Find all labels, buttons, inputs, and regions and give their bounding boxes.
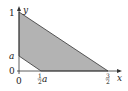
- y-tick-0: 0: [9, 66, 15, 76]
- y-tick-a: a: [9, 51, 14, 61]
- y-tick-1: 1: [9, 8, 15, 18]
- shaded-region: [19, 12, 108, 71]
- origin-label: 0: [16, 76, 22, 86]
- x-axis-label: x: [117, 73, 122, 83]
- region-diagram: y x 1 a 0 0 1 2 a 3 2: [0, 0, 128, 91]
- y-axis-arrow-icon: [17, 6, 21, 11]
- x-tick-half-a-var: a: [42, 74, 47, 84]
- y-axis-label: y: [22, 5, 29, 15]
- x-tick-three-halves-den: 2: [106, 78, 110, 85]
